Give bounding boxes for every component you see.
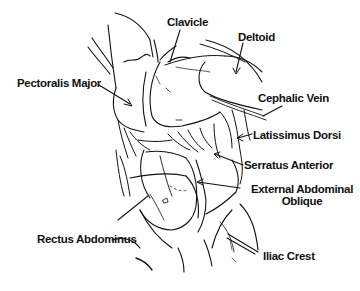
cephalic-vein-leader xyxy=(263,106,282,116)
label-clavicle: Clavicle xyxy=(167,16,208,28)
label-external-abdominal-oblique: External Abdominal Oblique xyxy=(241,183,360,207)
label-deltoid: Deltoid xyxy=(238,31,275,43)
label-external-abdominal-oblique-line2: Oblique xyxy=(241,195,360,207)
label-pectoralis-major: Pectoralis Major xyxy=(17,77,101,89)
leader-lines xyxy=(99,30,282,254)
label-serratus-anterior: Serratus Anterior xyxy=(244,159,333,171)
serratus-anterior-leader xyxy=(215,154,243,165)
label-latissimus-dorsi: Latissimus Dorsi xyxy=(253,129,341,141)
external-oblique-leader xyxy=(198,182,240,188)
deltoid-outline xyxy=(199,40,262,110)
label-cephalic-vein: Cephalic Vein xyxy=(258,92,329,104)
rectus-abdominus-outline xyxy=(130,150,197,230)
anatomy-diagram: Clavicle Deltoid Pectoralis Major Cephal… xyxy=(0,0,360,291)
label-iliac-crest: Iliac Crest xyxy=(263,250,315,262)
label-rectus-abdominus: Rectus Abdominus xyxy=(37,233,137,245)
pectoralis-major-leader xyxy=(99,85,130,104)
iliac-crest-leader xyxy=(228,234,258,252)
pectoralis-major-outline xyxy=(113,62,220,132)
external-oblique-outline xyxy=(186,160,238,232)
rib-lines xyxy=(116,120,172,196)
label-external-abdominal-oblique-line1: External Abdominal xyxy=(241,183,360,195)
torso-line-drawing xyxy=(0,0,360,291)
